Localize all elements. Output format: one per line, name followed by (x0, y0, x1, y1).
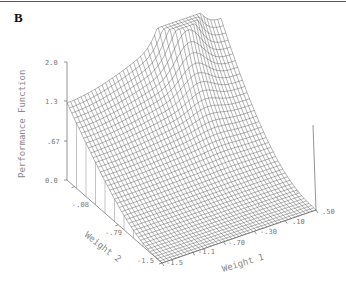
mesh-line (91, 86, 245, 152)
mesh-line (155, 203, 309, 256)
mesh-line (98, 105, 252, 168)
mesh-line (160, 208, 314, 261)
mesh-line (162, 27, 257, 231)
y-tick (72, 187, 75, 188)
x-tick (316, 210, 318, 213)
y-tick-.08: -.08 (72, 201, 89, 209)
mesh-line (204, 16, 299, 216)
z-tick-0: 0.0 (45, 177, 58, 185)
x-tick-1.5: -1.5 (166, 259, 183, 267)
x-tick-.10: .10 (292, 218, 305, 226)
x-tick (162, 263, 164, 266)
mesh-line (85, 95, 180, 257)
x-tick (254, 231, 256, 234)
z-axis-label: Performance Function (17, 70, 27, 178)
z-tick-1.3: 1.3 (45, 98, 58, 106)
mesh-line (86, 73, 240, 144)
mesh-line (88, 80, 242, 148)
x-axis-label: Weight 1 (221, 252, 265, 274)
mesh-line (107, 127, 261, 186)
mesh-line (176, 22, 271, 226)
mesh-line (145, 193, 299, 246)
mesh-line (179, 21, 274, 225)
x-tick-.50: .50 (322, 208, 335, 216)
mesh-line (172, 23, 267, 227)
mesh-line (119, 152, 273, 208)
x-tick (224, 242, 226, 245)
x-tick (285, 221, 287, 224)
mesh-line (157, 206, 311, 259)
back-right-edge (313, 125, 316, 210)
mesh-line (110, 132, 264, 190)
mesh-line (88, 93, 183, 256)
y-tick-1.5: -1.5 (137, 257, 154, 265)
x-tick-1.1: -1.1 (198, 248, 215, 256)
z-tick-2: 2.0 (45, 59, 58, 67)
surface-plot: 2.0 1.3 .67 0.0 -.08 -.79 -1.5 -1.5 -1.1… (0, 0, 346, 288)
wireframe-mesh (67, 13, 316, 263)
y-tick-.79: -.79 (105, 229, 122, 237)
mesh-line (165, 25, 260, 229)
z-tick-.67: .67 (47, 138, 60, 146)
mesh-line (169, 24, 264, 228)
x-tick (193, 252, 195, 255)
mesh-line (130, 65, 225, 241)
y-tick (159, 263, 162, 264)
x-tick-.70: -.70 (228, 239, 245, 247)
mesh-line (190, 17, 285, 221)
x-tick-.30: -.30 (260, 228, 277, 236)
mesh-line (120, 73, 215, 245)
mesh-line (186, 18, 281, 222)
y-tick (115, 225, 118, 226)
